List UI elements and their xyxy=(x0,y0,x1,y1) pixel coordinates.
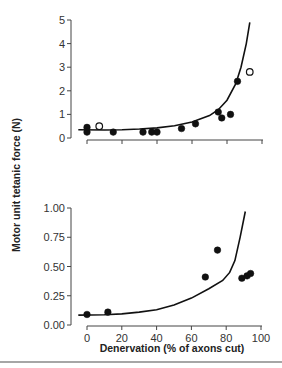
filled-data-point xyxy=(140,129,147,136)
y-tick-label: 0.75 xyxy=(44,231,65,243)
open-data-point xyxy=(96,123,103,130)
filled-data-point xyxy=(218,115,225,122)
fit-curve xyxy=(78,212,245,316)
bottom-panel: 0.000.250.500.751.00020406080100 xyxy=(44,202,271,344)
y-tick-label: 0.25 xyxy=(44,290,65,302)
fit-curve xyxy=(78,22,250,130)
x-tick-label: 0 xyxy=(84,332,90,344)
x-tick-label: 100 xyxy=(252,332,270,344)
y-tick-label: 3 xyxy=(59,61,65,73)
filled-data-point xyxy=(247,270,254,277)
y-tick-label: 5 xyxy=(59,14,65,26)
top-panel: 012345 xyxy=(59,14,263,144)
x-axis-label: Denervation (% of axons cut) xyxy=(100,342,245,354)
y-tick-label: 1 xyxy=(59,108,65,120)
filled-data-point xyxy=(154,129,161,136)
filled-data-point xyxy=(214,247,221,254)
y-axis-label: Motor unit tetanic force (N) xyxy=(10,118,22,252)
y-tick-label: 0 xyxy=(59,132,65,144)
open-data-point xyxy=(246,69,253,76)
y-tick-label: 0.50 xyxy=(44,261,65,273)
chart-figure: Motor unit tetanic force (N) 012345 0.00… xyxy=(0,0,282,368)
y-tick-label: 2 xyxy=(59,85,65,97)
filled-data-point xyxy=(227,111,234,118)
filled-data-point xyxy=(202,274,209,281)
y-tick-label: 4 xyxy=(59,38,65,50)
y-tick-label: 0.00 xyxy=(44,319,65,331)
y-tick-label: 1.00 xyxy=(44,202,65,214)
filled-data-point xyxy=(178,125,185,132)
